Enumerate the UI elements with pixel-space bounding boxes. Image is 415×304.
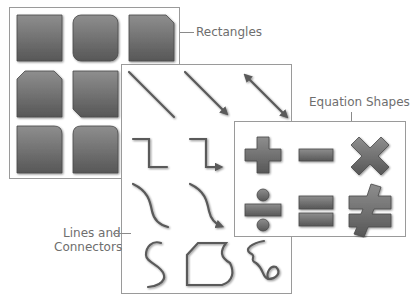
rectangles-label: Rectangles	[196, 25, 262, 40]
line-double-arrow-icon[interactable]	[246, 76, 286, 116]
elbow-arrow-connector-icon[interactable]	[190, 139, 220, 167]
multiply-icon[interactable]	[351, 137, 389, 175]
round-single-corner-rectangle-icon[interactable]	[17, 126, 62, 173]
lines-leader-line	[113, 233, 131, 234]
curve-icon[interactable]	[146, 242, 164, 287]
rectangles-leader-line	[180, 32, 194, 33]
rounded-rectangle-icon[interactable]	[73, 15, 118, 61]
not-equal-icon[interactable]	[349, 184, 391, 237]
division-top-dot	[257, 189, 269, 201]
division-icon[interactable]	[245, 204, 281, 216]
rectangle-icon[interactable]	[17, 15, 62, 61]
snip-diagonal-corner-rectangle-icon[interactable]	[73, 71, 118, 117]
elbow-connector-icon[interactable]	[133, 139, 167, 167]
lines-label-line2: Connectors	[54, 240, 122, 255]
equation-shapes-panel	[234, 121, 406, 237]
snip-same-side-corner-rectangle-icon[interactable]	[17, 71, 62, 117]
scribble-icon[interactable]	[248, 241, 278, 279]
curved-arrow-connector-icon[interactable]	[190, 184, 221, 226]
lines-label-line1: Lines and	[63, 226, 121, 241]
freeform-icon[interactable]	[187, 243, 232, 285]
division-bottom-dot	[257, 219, 269, 231]
equation-shapes-label: Equation Shapes	[309, 95, 410, 110]
line-arrow-icon[interactable]	[185, 72, 226, 113]
equal-icon-top[interactable]	[299, 196, 333, 209]
round-same-side-corner-rectangle-icon[interactable]	[73, 126, 118, 173]
equation-shapes	[235, 122, 407, 238]
minus-icon[interactable]	[299, 149, 333, 161]
equal-icon-bottom	[299, 213, 333, 226]
curved-connector-icon[interactable]	[133, 184, 168, 227]
plus-icon[interactable]	[245, 137, 281, 173]
line-icon[interactable]	[129, 72, 174, 117]
snip-single-corner-rectangle-icon[interactable]	[129, 15, 174, 61]
